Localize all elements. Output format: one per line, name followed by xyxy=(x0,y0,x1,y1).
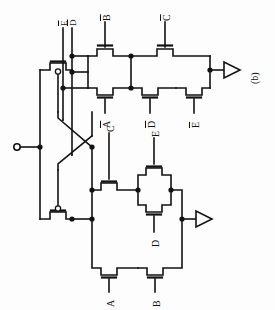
input-terminal-circle[interactable] xyxy=(14,144,20,150)
label-a: A xyxy=(106,300,116,307)
tr-ebar xyxy=(176,88,210,95)
tr-abar xyxy=(88,88,131,95)
dot-upper-mid-top xyxy=(128,53,133,58)
circuit-schematic xyxy=(0,0,275,310)
gate-bubble-xc-bottom xyxy=(55,206,60,211)
output-bottom-triangle[interactable] xyxy=(196,211,212,227)
dot-crossnode xyxy=(89,144,94,149)
dot-lower-output xyxy=(179,216,184,221)
label-dbar2: D xyxy=(147,121,157,128)
dot-bridge-right xyxy=(168,187,173,192)
dot-upper-mid-bottom xyxy=(128,85,133,90)
dot-lower-upper-left xyxy=(89,187,94,192)
label-e: E xyxy=(151,131,161,137)
bridge-bottom-d xyxy=(138,190,171,212)
dot-latch-upper xyxy=(69,69,74,74)
dot-bus-top xyxy=(69,53,74,58)
tr-xc-bottom xyxy=(40,212,72,219)
dot-input xyxy=(37,144,42,149)
tr-b xyxy=(138,219,182,275)
label-d: D xyxy=(151,240,161,247)
label-c: C xyxy=(106,125,116,132)
figure-canvas: E D B C A D E C E D A B (b) xyxy=(0,0,275,310)
label-ebar2: E xyxy=(191,122,201,128)
label-cbar: C xyxy=(162,14,172,21)
output-buffers xyxy=(196,62,240,227)
tr-bbar xyxy=(88,49,131,56)
dot-bridge-left xyxy=(135,187,140,192)
dot-upper-output xyxy=(207,67,212,72)
tr-c xyxy=(92,183,138,190)
dot-lower-lower-left xyxy=(89,216,94,221)
tr-cbar xyxy=(131,49,210,56)
gate-bubble-xc-top xyxy=(55,69,60,74)
bridge-top-e xyxy=(138,168,171,190)
tr-a xyxy=(92,219,138,275)
dot-bus-bottom xyxy=(60,85,65,90)
tr-dbar xyxy=(131,88,176,95)
dot-latch-lower xyxy=(69,216,74,221)
label-dbar-bus: D xyxy=(69,20,78,27)
figure-caption: (b) xyxy=(250,72,260,84)
output-top-triangle[interactable] xyxy=(224,62,240,78)
wires-group xyxy=(14,22,224,292)
bridge-to-output-rail xyxy=(171,190,182,219)
label-bbar: B xyxy=(102,14,112,21)
label-b: B xyxy=(152,300,162,307)
cross-wire-b xyxy=(58,136,92,170)
